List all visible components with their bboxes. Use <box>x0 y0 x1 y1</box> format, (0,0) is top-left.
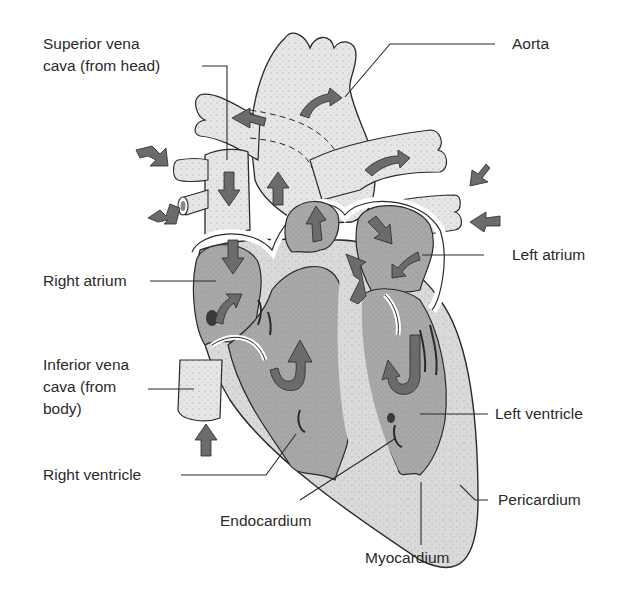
label-superior-vena-cava: Superior vena cava (from head) <box>43 33 160 77</box>
label-superior-vena-cava-line2: cava (from head) <box>43 55 160 77</box>
blood-flow-arrow-icon <box>470 212 500 232</box>
label-inferior-vena-cava: Inferior vena cava (from body) <box>43 354 129 420</box>
label-right-atrium: Right atrium <box>43 270 127 292</box>
left-atrium-chamber <box>356 206 433 293</box>
label-endocardium: Endocardium <box>220 510 311 532</box>
label-right-ventricle: Right ventricle <box>43 464 141 486</box>
label-myocardium: Myocardium <box>365 547 449 569</box>
label-superior-vena-cava-line1: Superior vena <box>43 33 160 55</box>
label-inferior-vena-cava-line2: cava (from <box>43 376 129 398</box>
inferior-vena-cava <box>178 360 222 421</box>
blood-flow-arrow-icon <box>148 204 180 224</box>
label-aorta: Aorta <box>512 33 549 55</box>
aorta-vessel <box>251 33 375 224</box>
label-pericardium: Pericardium <box>498 489 581 511</box>
label-left-atrium: Left atrium <box>512 244 585 266</box>
heart-diagram: Superior vena cava (from head) Aorta Lef… <box>0 0 644 594</box>
pulmonary-veins-right <box>174 159 209 182</box>
blood-flow-arrow-icon <box>470 164 490 186</box>
label-left-ventricle: Left ventricle <box>495 403 583 425</box>
blood-flow-arrow-icon <box>195 424 217 456</box>
label-inferior-vena-cava-line1: Inferior vena <box>43 354 129 376</box>
label-inferior-vena-cava-line3: body) <box>43 398 129 420</box>
blood-flow-arrow-icon <box>136 146 168 166</box>
